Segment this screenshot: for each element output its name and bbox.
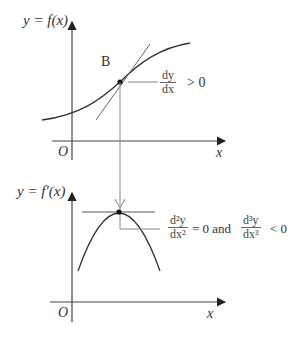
dx3-denominator: dx³	[241, 228, 261, 241]
second-derivative-fraction: d²y dx²	[168, 214, 188, 241]
second-derivative-relation: = 0 and	[192, 221, 231, 237]
lower-y-label: y = f′(x)	[17, 183, 65, 200]
third-derivative-fraction: d³y dx³	[241, 214, 261, 241]
dx-denominator: dx	[160, 83, 176, 96]
upper-y-label: y = f(x)	[23, 12, 68, 29]
d2y-numerator: d²y	[168, 214, 188, 228]
max-point	[116, 209, 121, 214]
upper-origin-label: O	[58, 144, 68, 160]
third-derivative-relation: < 0	[270, 221, 287, 237]
dy-dx-relation: > 0	[187, 75, 205, 91]
dy-numerator: dy	[160, 69, 176, 83]
lower-origin-label: O	[58, 305, 68, 321]
dy-dx-fraction: dy dx	[160, 69, 176, 96]
upper-x-label: x	[216, 145, 222, 161]
d3y-numerator: d³y	[241, 214, 261, 228]
dx2-denominator: dx²	[168, 228, 188, 241]
lower-x-label: x	[207, 306, 213, 322]
diagram-canvas	[0, 0, 301, 341]
lower-curve	[78, 213, 160, 271]
point-b-label: B	[101, 54, 110, 70]
